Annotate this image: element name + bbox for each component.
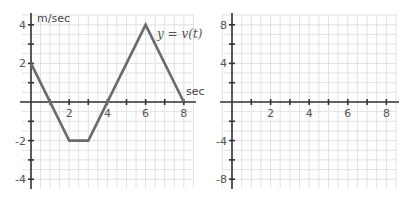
y-tick-label: -8 [216,173,227,186]
x-tick-label: 4 [306,107,313,120]
y-tick-label: 2 [19,57,26,70]
y-tick-label: -2 [15,135,26,148]
y-tick-label: 4 [220,57,227,70]
blank-chart: 246884-4-8 [216,13,399,189]
x-tick-label: 8 [383,107,390,120]
x-tick-label: 2 [267,107,274,120]
x-tick-label: 2 [66,107,73,120]
y-axis-unit-label: m/sec [37,12,70,25]
y-tick-label: -4 [216,135,227,148]
chart-canvas: 246842-2-4m/secsecy = v(t) 246884-4-8 [0,0,417,201]
y-tick-label: -4 [15,173,26,186]
x-tick-label: 8 [180,107,187,120]
curve-annotation: y = v(t) [156,27,203,41]
y-tick-label: 4 [19,19,26,32]
x-axis-unit-label: sec [186,85,205,98]
x-tick-label: 6 [344,107,351,120]
y-tick-label: 8 [220,19,227,32]
velocity-chart: 246842-2-4m/secsecy = v(t) [15,12,205,189]
x-tick-label: 6 [142,107,149,120]
